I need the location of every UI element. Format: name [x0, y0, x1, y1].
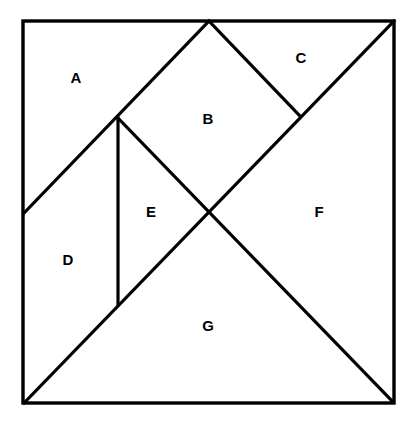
edge-B-C-edge	[209, 21, 299, 115]
tangram-diagram: A B C D E F G	[0, 0, 417, 423]
piece-label-c: C	[296, 50, 307, 65]
piece-label-a: A	[71, 70, 82, 85]
piece-label-b: B	[203, 111, 214, 126]
piece-label-f: F	[314, 204, 323, 219]
tangram-lines	[0, 0, 417, 423]
edge-anti-diagonal	[118, 118, 393, 402]
piece-label-e: E	[146, 204, 156, 219]
piece-label-g: G	[202, 318, 214, 333]
piece-label-d: D	[63, 252, 74, 267]
